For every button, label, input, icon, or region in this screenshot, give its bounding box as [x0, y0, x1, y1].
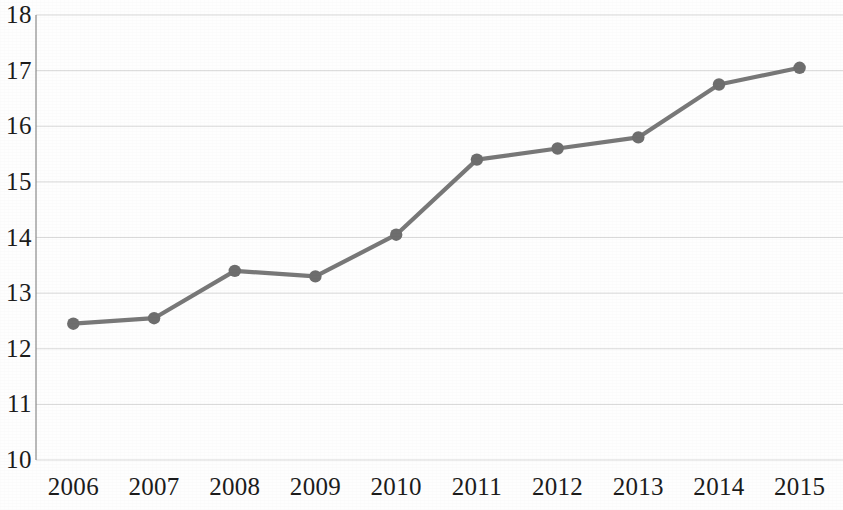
x-axis-tick-label: 2007	[128, 474, 179, 499]
data-point-marker	[793, 62, 805, 74]
data-point-marker	[67, 318, 79, 330]
y-axis-tick-label: 10	[2, 447, 32, 472]
y-axis-tick-label: 15	[2, 169, 32, 194]
x-axis-tick-label: 2009	[290, 474, 341, 499]
series-polyline	[73, 68, 799, 324]
y-axis-tick-label: 11	[2, 391, 32, 416]
data-point-marker	[390, 229, 402, 241]
x-axis-tick-label: 2006	[48, 474, 99, 499]
y-axis-tick-label: 18	[2, 2, 32, 27]
x-axis-tick-label: 2011	[452, 474, 502, 499]
data-point-marker	[632, 131, 644, 143]
data-point-marker	[551, 142, 563, 154]
x-axis-tick-label: 2012	[532, 474, 583, 499]
y-axis-tick-label: 12	[2, 336, 32, 361]
line-chart: 181716151413121110 200620072008200920102…	[0, 0, 843, 510]
y-axis-tick-label: 16	[2, 113, 32, 138]
y-axis-tick-labels: 181716151413121110	[0, 0, 32, 510]
chart-plot-area	[0, 0, 843, 510]
y-axis-tick-label: 14	[2, 225, 32, 250]
data-point-marker	[471, 153, 483, 165]
x-axis-tick-label: 2015	[774, 474, 825, 499]
data-point-marker	[713, 78, 725, 90]
data-point-marker	[229, 265, 241, 277]
x-axis-tick-label: 2008	[209, 474, 260, 499]
data-series-line	[73, 68, 799, 324]
x-axis-tick-label: 2014	[693, 474, 744, 499]
x-axis-tick-label: 2013	[613, 474, 664, 499]
y-axis-tick-label: 17	[2, 58, 32, 83]
x-axis-tick-label: 2010	[371, 474, 422, 499]
y-axis-tick-label: 13	[2, 280, 32, 305]
data-point-marker	[309, 270, 321, 282]
data-point-marker	[148, 312, 160, 324]
